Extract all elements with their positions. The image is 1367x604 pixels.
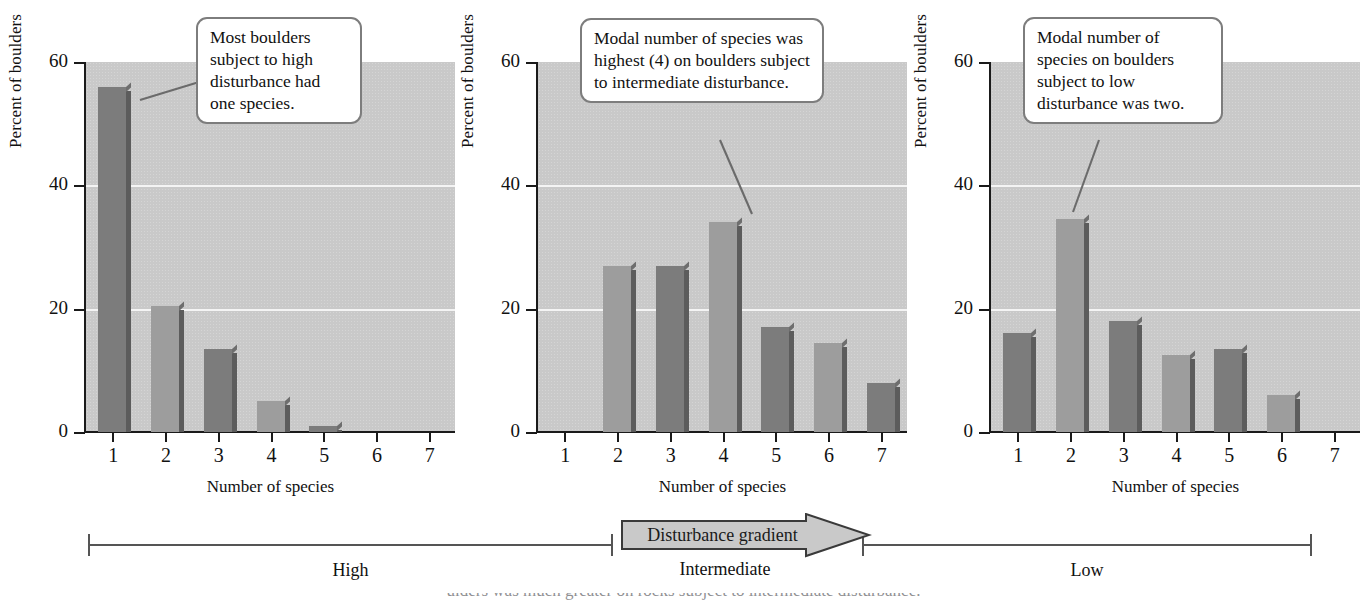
y-tick-60 — [979, 62, 990, 64]
bar-side — [1084, 223, 1089, 432]
range-cap-right — [611, 534, 613, 556]
y-tick-0 — [526, 432, 537, 434]
x-tick-1 — [1017, 433, 1019, 442]
bar-species-6 — [814, 343, 842, 432]
bar-face — [151, 306, 179, 432]
x-tick-2 — [1070, 433, 1072, 442]
bar-face — [814, 343, 842, 432]
caption-text: ulders was much greater on rocks subject… — [0, 593, 1367, 601]
x-tick-4 — [723, 433, 725, 442]
bar-face — [1003, 333, 1031, 432]
y-axis-title: Percent of boulders — [6, 0, 26, 148]
bar-face — [1056, 219, 1084, 432]
x-tick-6 — [376, 433, 378, 442]
bar-face — [867, 383, 895, 432]
bar-species-5 — [1214, 349, 1242, 432]
y-tick-label-40: 40 — [20, 174, 68, 193]
x-tick-label-3: 3 — [1109, 444, 1139, 467]
y-tick-label-20: 20 — [472, 298, 520, 317]
bar-species-5 — [761, 327, 789, 432]
y-tick-label-0: 0 — [472, 421, 520, 440]
range-label-high: High — [88, 560, 613, 581]
callout-low-disturbance: Modal number of species on boulders subj… — [1023, 17, 1223, 124]
x-tick-label-1: 1 — [98, 444, 128, 467]
bar-face — [98, 87, 126, 432]
bar-side — [1190, 359, 1195, 432]
figure-caption-sliver: ulders was much greater on rocks subject… — [0, 593, 1367, 604]
y-axis-line — [84, 62, 86, 433]
bar-face — [656, 266, 684, 433]
bar-species-1 — [98, 87, 126, 432]
bar-species-2 — [1056, 219, 1084, 432]
x-tick-6 — [1281, 433, 1283, 442]
y-axis-title: Percent of boulders — [911, 0, 931, 148]
bar-species-7 — [867, 383, 895, 432]
y-axis-title: Percent of boulders — [458, 0, 478, 148]
x-tick-7 — [429, 433, 431, 442]
bar-side — [1242, 353, 1247, 432]
y-tick-60 — [526, 62, 537, 64]
bar-species-6 — [1267, 395, 1295, 432]
y-tick-label-60: 60 — [20, 51, 68, 70]
callout-high-disturbance: Most boulders subject to high disturbanc… — [196, 17, 362, 124]
y-tick-40 — [526, 185, 537, 187]
x-tick-label-5: 5 — [761, 444, 791, 467]
x-tick-label-5: 5 — [1214, 444, 1244, 467]
x-tick-3 — [1123, 433, 1125, 442]
chart-panel-high-disturbance: Percent of boulders 0204060 1234567 Numb… — [0, 0, 455, 512]
x-tick-label-1: 1 — [550, 444, 580, 467]
x-tick-3 — [670, 433, 672, 442]
y-tick-label-0: 0 — [20, 421, 68, 440]
range-high: High — [88, 534, 613, 556]
x-axis-title: Number of species — [538, 477, 907, 497]
bar-species-3 — [204, 349, 232, 432]
bar-side — [789, 331, 794, 432]
x-tick-2 — [617, 433, 619, 442]
x-tick-5 — [1228, 433, 1230, 442]
y-tick-20 — [74, 309, 85, 311]
bar-face — [1214, 349, 1242, 432]
x-tick-5 — [323, 433, 325, 442]
arrow-label: Disturbance gradient — [620, 525, 825, 546]
bar-side — [232, 353, 237, 432]
x-tick-2 — [165, 433, 167, 442]
bar-face — [603, 266, 631, 433]
range-low: Low — [862, 534, 1312, 556]
range-label-intermediate: Intermediate — [620, 559, 830, 580]
bar-species-1 — [1003, 333, 1031, 432]
x-tick-label-2: 2 — [603, 444, 633, 467]
bar-side — [895, 387, 900, 432]
x-tick-label-7: 7 — [1320, 444, 1350, 467]
bar-side — [179, 310, 184, 432]
bar-face — [204, 349, 232, 432]
y-tick-0 — [74, 432, 85, 434]
bar-side — [842, 347, 847, 432]
bar-species-4 — [257, 401, 285, 432]
x-tick-label-6: 6 — [362, 444, 392, 467]
x-tick-label-4: 4 — [257, 444, 287, 467]
y-tick-20 — [979, 309, 990, 311]
y-axis-line — [536, 62, 538, 433]
bar-side — [1031, 337, 1036, 432]
x-axis-title: Number of species — [991, 477, 1360, 497]
bar-side — [126, 91, 131, 432]
x-tick-label-6: 6 — [814, 444, 844, 467]
y-tick-label-40: 40 — [925, 174, 973, 193]
y-tick-label-0: 0 — [925, 421, 973, 440]
x-tick-label-4: 4 — [709, 444, 739, 467]
x-tick-label-2: 2 — [151, 444, 181, 467]
x-tick-label-5: 5 — [309, 444, 339, 467]
gridline-20 — [991, 309, 1360, 311]
bar-side — [1137, 325, 1142, 432]
bar-side — [684, 270, 689, 433]
bar-side — [631, 270, 636, 433]
x-tick-1 — [564, 433, 566, 442]
x-tick-4 — [271, 433, 273, 442]
callout-leader-line — [682, 138, 772, 218]
callout-intermediate-disturbance: Modal number of species was highest (4) … — [580, 18, 824, 103]
x-tick-5 — [775, 433, 777, 442]
gridline-20 — [86, 309, 455, 311]
chart-panel-low-disturbance: Percent of boulders 0204060 1234567 Numb… — [905, 0, 1360, 512]
y-tick-label-60: 60 — [472, 51, 520, 70]
x-tick-label-3: 3 — [656, 444, 686, 467]
